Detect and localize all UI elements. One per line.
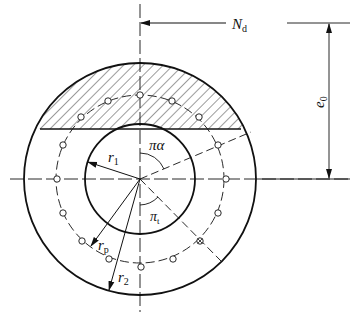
rp-label: rp — [98, 237, 109, 255]
bar — [215, 210, 221, 216]
bar — [169, 98, 175, 104]
bar — [223, 176, 229, 182]
bar — [54, 176, 60, 182]
bar — [78, 114, 84, 120]
rp-arrow — [91, 179, 140, 246]
r2-label: r2 — [118, 269, 129, 287]
bar — [137, 92, 143, 98]
bar — [60, 142, 66, 148]
diagram-svg: Nd e0 πα r1 πt rp r2 — [0, 0, 357, 316]
bar — [60, 210, 66, 216]
r1-label: r1 — [108, 149, 119, 167]
compression-angle-arc — [140, 153, 164, 169]
tension-angle-label: πt — [150, 209, 160, 226]
eccentricity-label: e0 — [311, 96, 329, 108]
bar — [105, 98, 111, 104]
bar — [196, 114, 202, 120]
tension-angle-arc — [140, 197, 158, 205]
bar — [79, 238, 85, 244]
bar — [215, 142, 221, 148]
compression-angle-label: πα — [149, 137, 166, 153]
bar — [138, 264, 144, 270]
bar — [106, 256, 112, 262]
axial-force-label: Nd — [231, 16, 247, 34]
annular-section-diagram: Nd e0 πα r1 πt rp r2 — [0, 0, 357, 316]
bar — [170, 256, 176, 262]
